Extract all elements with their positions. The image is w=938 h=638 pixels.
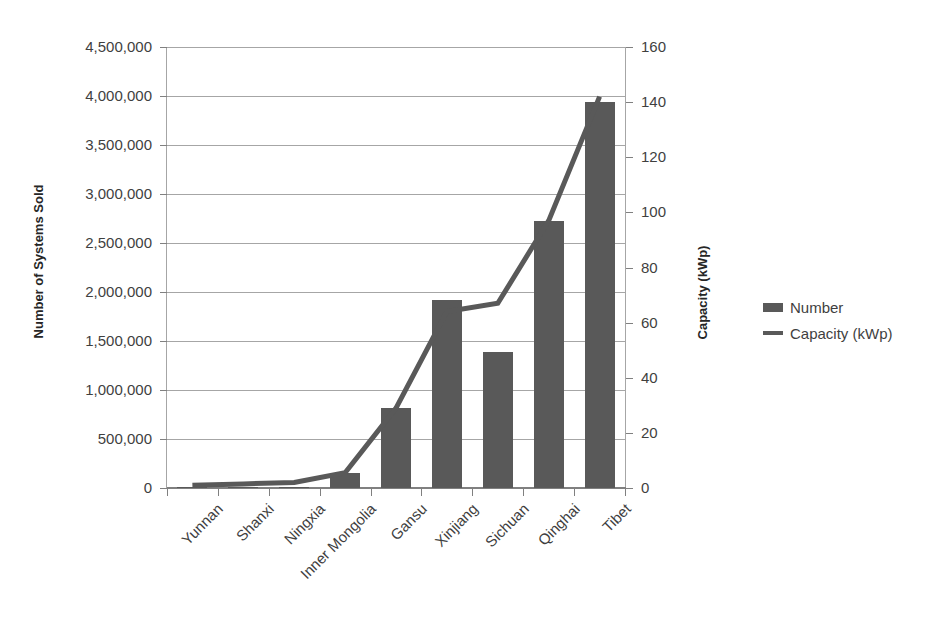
chart-legend: Number Capacity (kWp) [763,294,893,346]
y-axis-left-tick [160,243,167,244]
y-axis-left-tick-label: 2,500,000 [32,235,152,250]
x-axis-tick [218,489,219,496]
y-axis-right-tick-label: 60 [641,315,701,330]
y-axis-left-tick-label: 4,000,000 [32,88,152,103]
y-axis-right-tick [626,323,633,324]
y-axis-right-tick [626,378,633,379]
x-axis-tick [320,489,321,496]
x-axis-tick [625,489,626,496]
x-axis-tick [421,489,422,496]
y-axis-right-tick [626,212,633,213]
y-axis-left-tick-label: 3,500,000 [32,137,152,152]
y-axis-right-tick-label: 140 [641,94,701,109]
x-axis-tick [472,489,473,496]
x-axis-tick [523,489,524,496]
y-axis-left-tick [160,96,167,97]
legend-label-capacity: Capacity (kWp) [790,325,893,342]
y-axis-left-tick [160,194,167,195]
y-axis-left-tick [160,488,167,489]
x-axis-tick [167,489,168,496]
y-axis-left-tick-label: 1,500,000 [32,333,152,348]
y-axis-left-tick-label: 1,000,000 [32,382,152,397]
y-axis-left-tick [160,292,167,293]
y-axis-right-tick-label: 80 [641,260,701,275]
legend-item-number: Number [763,294,893,320]
y-axis-right-tick [626,47,633,48]
y-axis-right-tick [626,488,633,489]
y-axis-right-tick [626,157,633,158]
y-axis-left-tick [160,145,167,146]
y-axis-right-title: Capacity (kWp) [695,233,710,353]
y-axis-left-tick-label: 0 [32,480,152,495]
chart-canvas: Number of Systems Sold Capacity (kWp) 05… [0,0,938,638]
x-axis-tick [371,489,372,496]
y-axis-left-tick [160,47,167,48]
y-axis-right-tick-label: 40 [641,370,701,385]
y-axis-right-tick-label: 160 [641,39,701,54]
line-swatch-icon [763,331,783,335]
capacity-line [192,97,599,486]
x-axis-tick [269,489,270,496]
y-axis-right-tick-label: 120 [641,149,701,164]
y-axis-right-tick-label: 20 [641,425,701,440]
y-axis-left-tick-label: 2,000,000 [32,284,152,299]
y-axis-left-tick [160,341,167,342]
y-axis-left-tick-label: 500,000 [32,431,152,446]
y-axis-right-tick-label: 100 [641,204,701,219]
bar-swatch-icon [763,303,783,312]
legend-label-number: Number [790,299,843,316]
y-axis-right-tick [626,268,633,269]
capacity-line-series [167,47,625,488]
y-axis-right-tick [626,433,633,434]
y-axis-left-tick [160,390,167,391]
y-axis-left-tick-label: 4,500,000 [32,39,152,54]
x-axis-tick [574,489,575,496]
y-axis-right-tick-label: 0 [641,480,701,495]
y-axis-left-tick [160,439,167,440]
y-axis-left-tick-label: 3,000,000 [32,186,152,201]
y-axis-right-tick [626,102,633,103]
legend-item-capacity: Capacity (kWp) [763,320,893,346]
